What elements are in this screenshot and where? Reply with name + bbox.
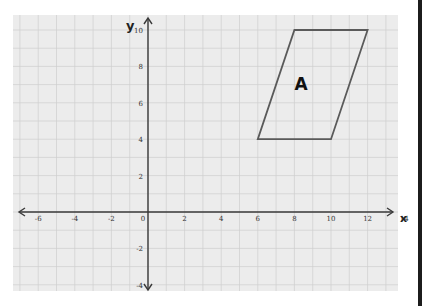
x-tick-label: 8 <box>292 215 296 223</box>
y-tick-label: 2 <box>139 173 143 181</box>
x-tick-label: -2 <box>108 215 115 223</box>
x-tick-label: 6 <box>256 215 261 223</box>
grid-paper <box>13 15 398 291</box>
x-tick-label: 10 <box>327 215 336 223</box>
grid-svg: -6-4-202468101214 108642-2-4 y x A <box>0 0 425 306</box>
x-tick-label: -6 <box>35 215 42 223</box>
shape-label-a: A <box>294 74 308 94</box>
x-tick-label: 4 <box>219 215 224 223</box>
y-tick-label: 4 <box>139 136 144 144</box>
x-tick-label: 2 <box>182 215 186 223</box>
x-tick-label: 12 <box>363 215 372 223</box>
x-axis-label: x <box>400 212 407 225</box>
page-edge-bar <box>418 0 422 306</box>
x-tick-label: 0 <box>141 215 145 223</box>
y-tick-label: -4 <box>136 282 143 290</box>
coordinate-grid-figure: -6-4-202468101214 108642-2-4 y x A <box>0 0 425 306</box>
y-tick-label: 6 <box>139 100 144 108</box>
y-tick-label: -2 <box>136 245 143 253</box>
y-tick-label: 8 <box>139 63 143 71</box>
y-tick-label: 10 <box>134 27 143 35</box>
x-tick-label: -4 <box>71 215 78 223</box>
y-axis-label: y <box>126 18 135 33</box>
